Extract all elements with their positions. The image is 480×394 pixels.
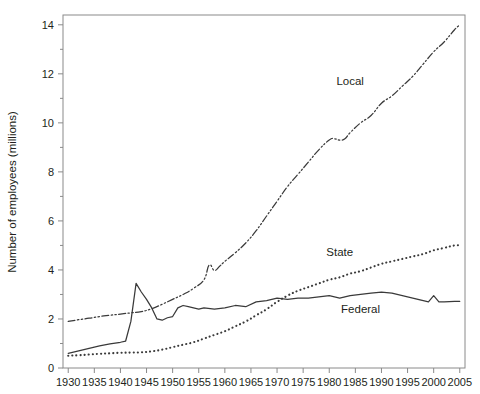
x-tick-label: 1985 <box>343 376 367 388</box>
x-axis-ticks <box>68 368 460 373</box>
y-tick-label: 0 <box>48 362 54 374</box>
y-tick-label: 8 <box>48 166 54 178</box>
x-tick-label: 1990 <box>369 376 393 388</box>
x-tick-label: 1955 <box>186 376 210 388</box>
series-annotations: LocalStateFederal <box>326 75 380 315</box>
x-tick-label: 1960 <box>213 376 237 388</box>
x-tick-label: 1970 <box>265 376 289 388</box>
x-tick-label: 1935 <box>82 376 106 388</box>
plot-border <box>63 15 465 368</box>
series-label-state: State <box>326 246 353 258</box>
x-tick-label: 1965 <box>239 376 263 388</box>
y-axis-tick-labels: 02468101214 <box>42 19 54 374</box>
chart-container: 02468101214 1930193519401945195019551960… <box>0 0 480 394</box>
x-tick-label: 1975 <box>291 376 315 388</box>
data-series <box>68 25 460 356</box>
x-tick-label: 1945 <box>134 376 158 388</box>
y-axis-title: Number of employees (millions) <box>6 111 18 273</box>
plot-frame <box>63 15 465 368</box>
x-tick-label: 1940 <box>108 376 132 388</box>
x-tick-label: 2000 <box>421 376 445 388</box>
series-line-local <box>68 25 460 322</box>
series-line-federal <box>68 283 460 353</box>
series-label-federal: Federal <box>341 303 380 315</box>
y-tick-label: 12 <box>42 68 54 80</box>
line-chart: 02468101214 1930193519401945195019551960… <box>0 0 480 394</box>
y-tick-label: 14 <box>42 19 54 31</box>
y-tick-label: 4 <box>48 264 54 276</box>
x-tick-label: 1995 <box>395 376 419 388</box>
y-tick-label: 2 <box>48 313 54 325</box>
series-label-local: Local <box>336 75 364 87</box>
x-axis-tick-labels: 1930193519401945195019551960196519701975… <box>56 376 472 388</box>
x-tick-label: 1930 <box>56 376 80 388</box>
x-tick-label: 2005 <box>448 376 472 388</box>
y-tick-label: 6 <box>48 215 54 227</box>
x-tick-label: 1950 <box>160 376 184 388</box>
x-tick-label: 1980 <box>317 376 341 388</box>
y-tick-label: 10 <box>42 117 54 129</box>
y-axis-ticks <box>58 25 63 368</box>
